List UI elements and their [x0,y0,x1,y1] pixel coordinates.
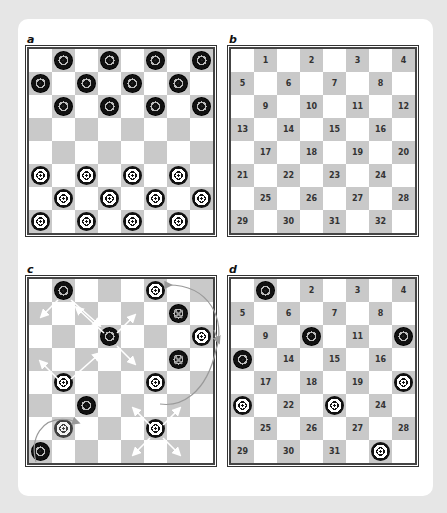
dark-square [167,164,190,187]
light-square [392,164,415,187]
dark-square: 16 [369,118,392,141]
dark-square: 30 [277,210,300,233]
light-square [167,371,190,394]
light-square [231,417,254,440]
light-square [300,210,323,233]
white-checker-piece [77,212,96,231]
light-square [254,118,277,141]
light-square [75,279,98,302]
white-checker-piece [325,396,344,415]
dark-square [52,417,75,440]
panel-label-d: d [229,264,237,275]
dark-square: 4 [392,49,415,72]
white-checker-piece [123,212,142,231]
dark-square [98,279,121,302]
light-square [392,440,415,463]
light-square [121,371,144,394]
dark-square [190,49,213,72]
light-square [300,440,323,463]
light-square [52,394,75,417]
white-checker-piece [31,166,50,185]
light-square [254,210,277,233]
dark-square: 20 [392,141,415,164]
white-checker-piece [371,442,390,461]
white-checker-piece [77,166,96,185]
light-square [98,440,121,463]
light-square [167,95,190,118]
light-square [346,394,369,417]
dark-square: 14 [277,118,300,141]
white-checker-piece [169,212,188,231]
light-square [254,302,277,325]
black-checker-piece [394,327,413,346]
dark-square [121,394,144,417]
dark-square: 6 [277,302,300,325]
white-checker-piece [192,189,211,208]
light-square [190,394,213,417]
light-square [29,279,52,302]
light-square [29,187,52,210]
square-number: 27 [346,187,369,210]
dark-square [75,440,98,463]
square-number: 28 [392,187,415,210]
dark-square [121,440,144,463]
square-number: 8 [369,302,392,325]
light-square [190,210,213,233]
light-square [190,164,213,187]
white-checker-piece [100,189,119,208]
light-square [323,95,346,118]
dark-square: 26 [300,187,323,210]
dark-square: 25 [254,187,277,210]
light-square [98,118,121,141]
dark-square: 31 [323,440,346,463]
square-number: 21 [231,164,254,187]
dark-square [190,417,213,440]
light-square [52,210,75,233]
square-number: 11 [346,95,369,118]
light-square [52,72,75,95]
dark-square [121,348,144,371]
white-checker-piece [394,373,413,392]
dark-square: 21 [231,164,254,187]
light-square [277,141,300,164]
light-square [254,394,277,417]
dark-square: 6 [277,72,300,95]
light-square [121,187,144,210]
black-checker-piece [100,51,119,70]
board-frame-b: 1234567891011121314151617181920212223242… [227,45,419,237]
square-number: 24 [369,394,392,417]
square-number: 13 [231,118,254,141]
dark-square [29,72,52,95]
light-square [254,348,277,371]
square-number: 16 [369,118,392,141]
light-square [231,279,254,302]
square-number: 14 [277,118,300,141]
black-checker-piece-captured [169,350,188,369]
black-checker-piece [192,97,211,116]
square-number: 7 [323,72,346,95]
white-checker-piece [146,189,165,208]
square-number: 3 [346,49,369,72]
black-checker-piece [31,442,50,461]
panel-label-a: a [27,34,34,45]
light-square [323,141,346,164]
dark-square [144,141,167,164]
square-number: 29 [231,440,254,463]
square-number: 19 [346,141,369,164]
dark-square: 30 [277,440,300,463]
light-square [190,302,213,325]
light-square [231,187,254,210]
dark-square: 24 [369,394,392,417]
light-square [323,417,346,440]
dark-square [190,141,213,164]
dark-square [75,210,98,233]
light-square [29,49,52,72]
dark-square: 7 [323,302,346,325]
square-number: 26 [300,417,323,440]
dark-square [190,371,213,394]
dark-square: 17 [254,141,277,164]
dark-square [29,348,52,371]
light-square [98,72,121,95]
dark-square: 25 [254,417,277,440]
dark-square: 32 [369,210,392,233]
